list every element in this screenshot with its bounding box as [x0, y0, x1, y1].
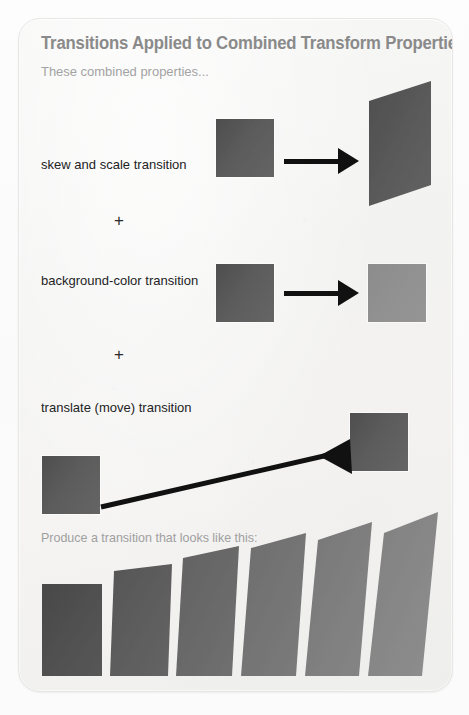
result-frame-1: [42, 584, 102, 676]
figure-card: Transitions Applied to Combined Transfor…: [18, 18, 453, 692]
result-frame-3: [176, 546, 239, 676]
result-frame-5: [305, 522, 372, 676]
result-sequence: [19, 19, 452, 691]
result-frame-6: [368, 512, 438, 676]
result-frame-2: [110, 564, 172, 676]
result-frame-4: [241, 533, 306, 676]
